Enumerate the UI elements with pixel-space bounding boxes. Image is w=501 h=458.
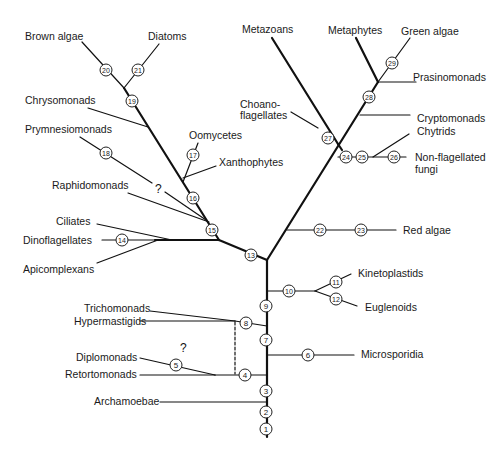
svg-text:16: 16: [189, 195, 197, 202]
label-nonflagellated-2: fungi: [415, 164, 438, 175]
svg-text:18: 18: [102, 150, 110, 157]
node-15: 15: [206, 224, 218, 236]
label-metaphytes: Metaphytes: [328, 25, 382, 36]
label-hypermastigids: Hypermastigids: [74, 316, 146, 327]
svg-text:14: 14: [118, 237, 126, 244]
label-cryptomonads: Cryptomonads: [417, 113, 485, 124]
label-chrysomonads: Chrysomonads: [25, 95, 96, 106]
node-13: 13: [245, 249, 257, 261]
node-9: 9: [260, 300, 272, 312]
branch-13: [219, 240, 267, 260]
branch-choanoflagellates: [291, 112, 318, 128]
svg-text:21: 21: [134, 67, 142, 74]
label-microsporidia: Microsporidia: [361, 349, 423, 360]
svg-text:23: 23: [357, 227, 365, 234]
node-5: 5: [170, 359, 182, 371]
node-16: 16: [187, 192, 199, 204]
label-prasinomonads: Prasinomonads: [413, 72, 486, 83]
node-28: 28: [363, 91, 375, 103]
svg-text:4: 4: [243, 371, 248, 380]
svg-text:27: 27: [324, 135, 332, 142]
node-20: 20: [100, 64, 112, 76]
label-nonflagellated-1: Non-flagellated: [415, 152, 486, 163]
node-8: 8: [240, 317, 252, 329]
label-retortomonads: Retortomonads: [65, 369, 137, 380]
svg-text:22: 22: [316, 227, 324, 234]
node-10: 10: [283, 285, 295, 297]
svg-text:12: 12: [332, 296, 340, 303]
branch-metaphytes: [356, 38, 378, 82]
label-diatoms: Diatoms: [148, 31, 187, 42]
svg-text:2: 2: [264, 408, 269, 417]
svg-text:8: 8: [244, 319, 249, 328]
branch-ciliates: [97, 224, 172, 240]
node-17: 17: [187, 149, 199, 161]
node-29: 29: [386, 57, 398, 69]
node-1: 1: [260, 423, 272, 435]
label-kinetoplastids: Kinetoplastids: [358, 268, 423, 279]
label-diplomonads: Diplomonads: [76, 352, 137, 363]
node-2: 2: [260, 406, 272, 418]
svg-text:24: 24: [342, 154, 350, 161]
branch-prymnesiomonads: [165, 192, 206, 220]
branch-oomycetes-xantho: [183, 143, 198, 182]
branch-metazoans: [272, 38, 338, 144]
label-green-algae: Green algae: [401, 26, 459, 37]
svg-text:11: 11: [332, 279, 339, 286]
label-brown-algae: Brown algae: [25, 31, 83, 42]
label-apicomplexans: Apicomplexans: [23, 264, 94, 275]
node-19: 19: [126, 95, 138, 107]
uncertain-mark-2: ?: [180, 341, 187, 355]
uncertain-mark-1: ?: [155, 182, 162, 196]
label-metazoans: Metazoans: [242, 24, 293, 35]
node-23: 23: [355, 224, 367, 236]
svg-text:3: 3: [264, 387, 269, 396]
svg-text:13: 13: [247, 252, 255, 259]
svg-text:6: 6: [306, 351, 311, 360]
node-18: 18: [100, 147, 112, 159]
label-dinoflagellates: Dinoflagellates: [23, 235, 92, 246]
node-11: 11: [330, 276, 342, 288]
branch-trichomonads: [150, 311, 235, 321]
branch-prymnesiomonads-2: [80, 137, 152, 183]
label-raphidomonads: Raphidomonads: [52, 180, 128, 191]
node-27: 27: [322, 132, 334, 144]
node-25: 25: [356, 151, 368, 163]
node-21: 21: [132, 64, 144, 76]
svg-text:5: 5: [174, 361, 179, 370]
svg-text:7: 7: [264, 336, 269, 345]
node-4: 4: [239, 369, 251, 381]
svg-text:19: 19: [128, 98, 136, 105]
label-trichomonads: Trichomonads: [84, 303, 150, 314]
label-ciliates: Ciliates: [56, 216, 90, 227]
node-7: 7: [260, 334, 272, 346]
svg-text:15: 15: [208, 227, 216, 234]
svg-text:17: 17: [189, 152, 197, 159]
label-choanoflagellates-2: flagellates: [240, 110, 287, 121]
label-red-algae: Red algae: [403, 225, 451, 236]
svg-text:26: 26: [390, 154, 398, 161]
svg-text:10: 10: [285, 288, 293, 295]
svg-text:9: 9: [264, 302, 269, 311]
svg-text:28: 28: [365, 94, 373, 101]
label-xanthophytes: Xanthophytes: [219, 157, 283, 168]
label-euglenoids: Euglenoids: [365, 302, 417, 313]
node-3: 3: [260, 385, 272, 397]
label-prymnesiomonads: Prymnesiomonads: [25, 124, 112, 135]
label-oomycetes: Oomycetes: [189, 130, 242, 141]
svg-text:20: 20: [102, 67, 110, 74]
node-26: 26: [388, 151, 400, 163]
svg-text:25: 25: [358, 154, 366, 161]
node-14: 14: [116, 234, 128, 246]
node-6: 6: [302, 349, 314, 361]
label-archamoebae: Archamoebae: [94, 396, 159, 407]
node-24: 24: [340, 151, 352, 163]
label-chytrids: Chytrids: [417, 126, 456, 137]
node-22: 22: [314, 224, 326, 236]
node-12: 12: [330, 293, 342, 305]
branch-heterokonts: [124, 88, 219, 240]
svg-text:1: 1: [264, 425, 269, 434]
svg-text:29: 29: [388, 60, 396, 67]
